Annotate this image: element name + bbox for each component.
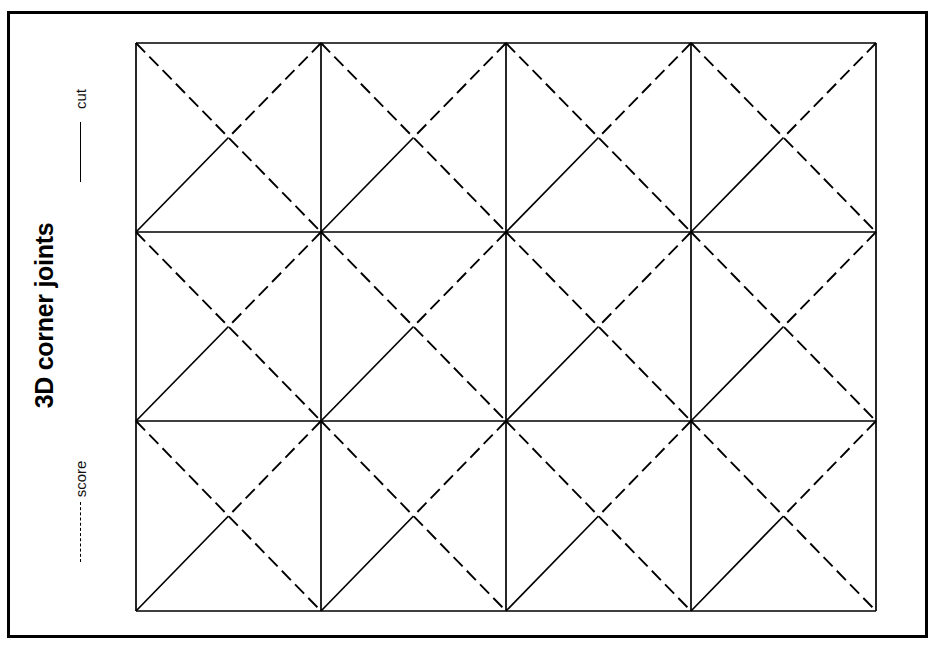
cut-line-lower-left xyxy=(691,327,784,422)
score-line-upper-right xyxy=(229,43,322,138)
cut-line-lower-left xyxy=(691,138,784,233)
cut-line-lower-left xyxy=(506,138,599,233)
corner-joint-pattern xyxy=(0,0,938,648)
cut-line-lower-left xyxy=(321,516,414,611)
cut-line-lower-left xyxy=(506,327,599,422)
cut-line-lower-left xyxy=(136,516,229,611)
pattern-sheet-page: 3D corner joints cut score xyxy=(0,0,938,648)
score-line-upper-right xyxy=(784,43,877,138)
cut-line-lower-left xyxy=(136,138,229,233)
pattern-cells xyxy=(136,43,876,611)
cut-line-lower-left xyxy=(691,516,784,611)
score-line-upper-right xyxy=(229,232,322,327)
cut-line-lower-left xyxy=(136,327,229,422)
score-line-upper-right xyxy=(229,421,322,516)
score-line-upper-right xyxy=(599,421,692,516)
cut-line-lower-left xyxy=(321,138,414,233)
score-line-upper-right xyxy=(599,232,692,327)
cut-line-lower-left xyxy=(321,327,414,422)
score-line-upper-right xyxy=(599,43,692,138)
score-line-upper-right xyxy=(414,421,507,516)
score-line-upper-right xyxy=(414,43,507,138)
score-line-upper-right xyxy=(784,232,877,327)
score-line-upper-right xyxy=(784,421,877,516)
cut-line-lower-left xyxy=(506,516,599,611)
score-line-upper-right xyxy=(414,232,507,327)
